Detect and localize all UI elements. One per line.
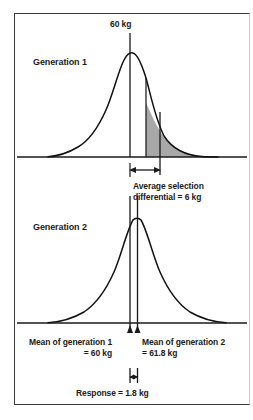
mean-60kg-label: 60 kg — [110, 19, 131, 30]
mean-generation2-line1: Mean of generation 2 — [142, 337, 225, 348]
selection-differential-label: Average selection differential = 6 kg — [133, 181, 204, 203]
generation1-curve — [48, 53, 218, 157]
figure-page: 60 kg Generation 1 Generation 2 Average … — [0, 0, 253, 420]
mean-generation1-line1: Mean of generation 1 — [29, 337, 112, 348]
gen1-mean-arrowhead — [127, 325, 133, 333]
generation1-label: Generation 1 — [33, 57, 87, 68]
generation2-label: Generation 2 — [33, 222, 87, 233]
mean-generation2-line2: = 61.8 kg — [142, 348, 225, 359]
selection-differential-line1: Average selection — [133, 181, 204, 192]
mean-generation2-label: Mean of generation 2 = 61.8 kg — [142, 337, 225, 359]
gen2-mean-arrowhead — [135, 325, 141, 333]
mean-generation1-line2: = 60 kg — [29, 348, 112, 359]
selection-differential-line2: differential = 6 kg — [133, 192, 204, 203]
mean-generation1-label: Mean of generation 1 = 60 kg — [29, 337, 112, 359]
shaded-selection-region — [146, 103, 214, 157]
response-label: Response = 1.8 kg — [76, 388, 149, 399]
